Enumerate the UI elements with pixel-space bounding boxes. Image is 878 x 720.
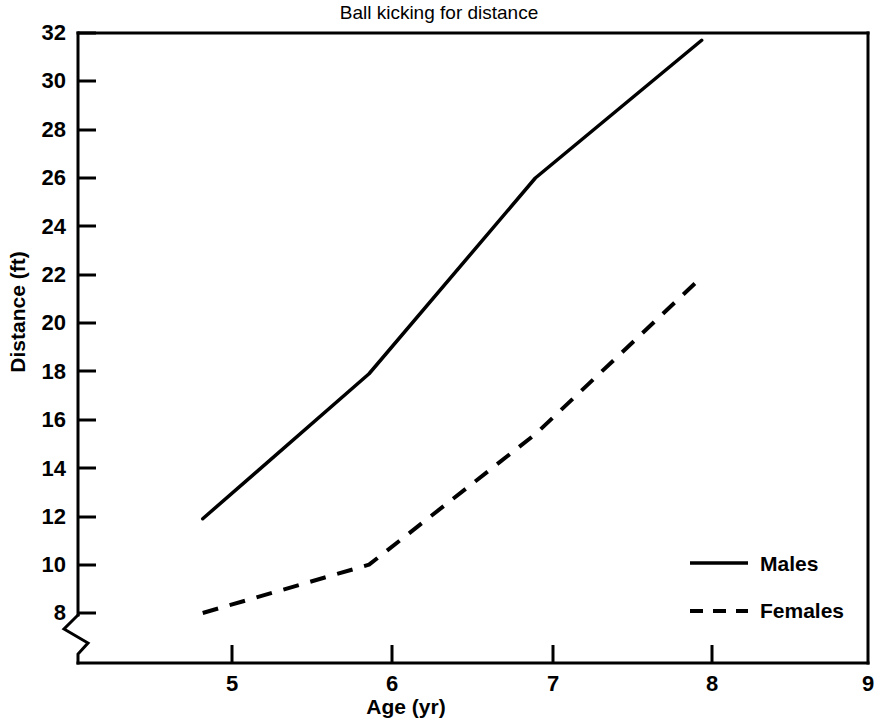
series-line-males [203, 40, 702, 519]
plot-area [0, 0, 878, 720]
y-axis-break-icon [64, 615, 88, 663]
series-line-females [203, 277, 702, 613]
chart-figure: Ball kicking for distance Distance (ft) … [0, 0, 878, 720]
